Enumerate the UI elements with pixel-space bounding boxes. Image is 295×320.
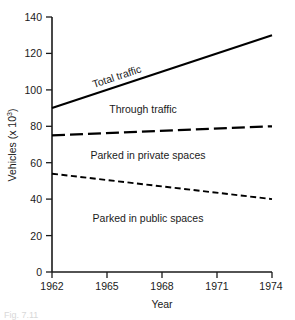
series-line-through-traffic — [52, 126, 272, 135]
x-tick-label-1962: 1962 — [40, 280, 64, 292]
y-axis-title-main: Vehicles (x 10 — [6, 116, 18, 182]
x-tick-label-1965: 1965 — [95, 280, 119, 292]
svg-text:Vehicles (x 103): Vehicles (x 103) — [6, 109, 18, 182]
y-axis-title: Vehicles (x 103) — [6, 109, 18, 182]
y-tick-label-40: 40 — [30, 193, 42, 205]
line-chart: 140 120 100 80 60 40 20 0 1962 1965 1968… — [0, 0, 295, 320]
y-tick-label-140: 140 — [24, 11, 42, 23]
y-tick-label-60: 60 — [30, 157, 42, 169]
x-tick-label-1974: 1974 — [259, 280, 283, 292]
band-label-parked-public: Parked in public spaces — [93, 212, 204, 224]
x-axis-ticks — [52, 272, 272, 278]
x-tick-label-1971: 1971 — [205, 280, 229, 292]
series-line-total-traffic — [52, 35, 272, 108]
y-axis-ticks — [46, 17, 52, 272]
figure-container: 140 120 100 80 60 40 20 0 1962 1965 1968… — [0, 0, 295, 320]
y-axis-title-suffix: ) — [6, 109, 18, 113]
y-tick-label-100: 100 — [24, 84, 42, 96]
series-label-through-traffic: Through traffic — [109, 103, 177, 115]
y-tick-label-80: 80 — [30, 120, 42, 132]
x-tick-label-1968: 1968 — [150, 280, 174, 292]
y-tick-label-0: 0 — [36, 266, 42, 278]
x-axis-title: Year — [151, 298, 173, 310]
y-tick-label-20: 20 — [30, 230, 42, 242]
series-line-parked-boundary — [52, 174, 272, 199]
figure-caption: Fig. 7.11 — [4, 310, 38, 320]
band-label-parked-private: Parked in private spaces — [91, 149, 206, 161]
y-tick-label-120: 120 — [24, 47, 42, 59]
